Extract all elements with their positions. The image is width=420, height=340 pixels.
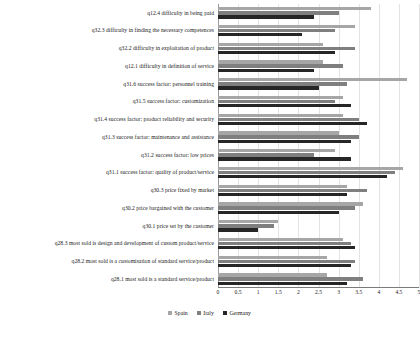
legend-item-spain[interactable]: Spain [168,310,188,316]
bar-row [218,114,419,117]
legend-item-italy[interactable]: Italy [197,310,214,316]
legend-label: Italy [203,310,214,316]
bar-spain [218,114,343,117]
bar-row [218,260,419,263]
bar-group [218,164,419,182]
x-tick-label: 0.5 [235,289,242,295]
bar-row [218,246,419,249]
bar-italy [218,171,395,174]
bar-row [218,140,419,143]
x-tick-label: 0 [217,289,220,295]
bar-row [218,96,419,99]
bar-row [218,60,419,63]
category-label: q28.3 most sold is design and developmen… [0,235,218,253]
bar-germany [218,228,258,231]
bar-germany [218,211,339,214]
bar-italy [218,47,355,50]
x-tick-label: 3.5 [355,289,362,295]
bar-germany [218,122,367,125]
bar-group [218,75,419,93]
legend-swatch-icon [223,311,227,315]
chart-plot-area: q12.4 difficulty in being paidq32.3 diff… [0,4,419,288]
bar-row [218,131,419,134]
bar-row [218,78,419,81]
bar-row [218,242,419,245]
bar-spain [218,202,363,205]
bar-row [218,149,419,152]
bar-italy [218,100,335,103]
bar-group [218,4,419,22]
bar-germany [218,69,314,72]
bar-row [218,256,419,259]
bar-spain [218,43,323,46]
bar-italy [218,135,359,138]
bar-group [218,111,419,129]
bar-row [218,86,419,89]
bar-row [218,118,419,121]
category-label: q31.4 success factor: product reliabilit… [0,111,218,129]
bar-row [218,153,419,156]
bar-row [218,175,419,178]
bar-row [218,189,419,192]
category-label: q31.2 success factor: low prices [0,146,218,164]
category-label: q32.3 difficulty in finding the necessar… [0,22,218,40]
bar-italy [218,224,274,227]
bar-group [218,182,419,200]
bar-group [218,146,419,164]
bar-germany [218,264,351,267]
bar-spain [218,96,343,99]
legend-label: Spain [175,310,188,316]
bar-spain [218,238,343,241]
bar-spain [218,220,278,223]
category-label: q30.3 price fixed by market [0,182,218,200]
bar-group [218,217,419,235]
bar-row [218,264,419,267]
x-tick-label: 4 [377,289,380,295]
bar-italy [218,29,335,32]
category-label: q31.1 success factor: quality of product… [0,164,218,182]
bar-group [218,253,419,271]
bar-italy [218,277,363,280]
bar-row [218,220,419,223]
bar-spain [218,131,339,134]
bar-row [218,238,419,241]
category-label: q31.5 success factor: customization [0,93,218,111]
bar-group [218,93,419,111]
bar-italy [218,153,314,156]
bar-row [218,228,419,231]
bar-spain [218,185,347,188]
x-axis-tick-labels: 00.511.522.533.544.55 [218,289,419,301]
bar-row [218,167,419,170]
bar-spain [218,78,407,81]
x-tick-label: 1.5 [275,289,282,295]
legend-item-germany[interactable]: Germany [223,310,251,316]
category-label: q12.1 difficulty in definition of servic… [0,57,218,75]
bar-germany [218,86,319,89]
category-label: q28.1 most sold is a standard service/pr… [0,270,218,288]
bar-row [218,135,419,138]
bar-row [218,43,419,46]
category-label: q12.4 difficulty in being paid [0,4,218,22]
bar-row [218,211,419,214]
bar-group [218,235,419,253]
bar-row [218,185,419,188]
bar-italy [218,189,367,192]
bar-row [218,104,419,107]
bar-germany [218,104,351,107]
bar-row [218,7,419,10]
bar-groups [218,4,419,288]
bar-group [218,270,419,288]
bar-row [218,11,419,14]
bar-germany [218,246,355,249]
x-tick-label: 2 [297,289,300,295]
bar-row [218,206,419,209]
bar-group [218,40,419,58]
bar-row [218,100,419,103]
bar-row [218,64,419,67]
category-label: q32.2 difficulty in exploitation of prod… [0,40,218,58]
bar-row [218,29,419,32]
plot-canvas [218,4,419,288]
legend-swatch-icon [197,311,201,315]
chart-legend: SpainItalyGermany [0,310,419,316]
